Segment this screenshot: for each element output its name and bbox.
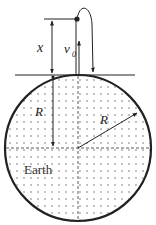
earth-projectile-diagram: x v 0 R R Earth bbox=[0, 0, 156, 225]
height-label: x bbox=[36, 40, 44, 55]
velocity-label: v bbox=[64, 41, 70, 56]
radius-diagonal-label: R bbox=[99, 112, 108, 127]
radius-start-dot bbox=[51, 75, 54, 78]
projectile-ball bbox=[74, 16, 79, 21]
earth-label: Earth bbox=[24, 162, 53, 177]
velocity-subscript: 0 bbox=[72, 50, 76, 59]
projectile-trajectory bbox=[74, 8, 93, 75]
radius-vertical-label: R bbox=[34, 104, 43, 119]
